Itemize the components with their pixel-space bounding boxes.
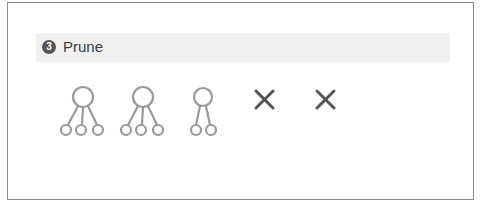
cross-icon-1 <box>256 91 273 108</box>
cross-icon-2 <box>317 91 334 108</box>
prune-diagram <box>0 0 480 207</box>
tree-icon-2 <box>121 87 163 135</box>
tree-icon-1 <box>61 87 103 135</box>
tree-icon-3 <box>191 88 216 135</box>
